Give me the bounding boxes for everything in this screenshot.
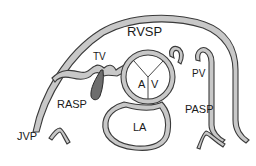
label-rasp: RASP (57, 98, 87, 110)
label-av-v: V (151, 78, 159, 90)
label-av-a: A (138, 78, 146, 90)
cardiac-diagram: RVSP TV PV RASP PASP JVP LA A V (0, 0, 256, 166)
aortic-valve (121, 50, 175, 104)
label-pv: PV (192, 68, 206, 79)
pulmonary-valve-walls (170, 46, 225, 143)
label-rvsp: RVSP (127, 24, 162, 39)
label-la: LA (133, 121, 147, 133)
jvp-waveform (49, 128, 70, 144)
label-jvp: JVP (17, 130, 37, 142)
label-tv: TV (93, 51, 106, 62)
label-pasp: PASP (185, 103, 214, 115)
